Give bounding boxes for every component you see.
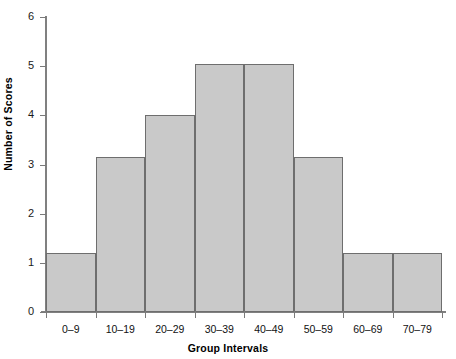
- x-tick-mark: [46, 311, 47, 318]
- y-axis-title: Number of Scores: [2, 64, 14, 184]
- x-tick-label-40–49: 40–49: [244, 323, 294, 335]
- x-tick-mark: [195, 311, 196, 318]
- y-tick-label: 0: [4, 305, 34, 318]
- bar-0–9: [46, 253, 96, 312]
- x-tick-label-20–29: 20–29: [145, 323, 195, 335]
- x-tick-mark: [244, 311, 245, 318]
- x-tick-mark: [145, 311, 146, 318]
- bar-40–49: [244, 64, 294, 312]
- bar-30–39: [195, 64, 245, 312]
- x-tick-mark: [343, 311, 344, 318]
- bar-20–29: [145, 115, 195, 312]
- y-tick-label: 1: [4, 256, 34, 269]
- x-tick-label-50–59: 50–59: [294, 323, 344, 335]
- x-tick-label-10–19: 10–19: [96, 323, 146, 335]
- x-tick-label-70–79: 70–79: [393, 323, 443, 335]
- y-tick-label: 2: [4, 207, 34, 220]
- y-tick-label: 6: [4, 10, 34, 23]
- histogram-chart: 0123456 0–910–1920–2930–3940–4950–5960–6…: [0, 0, 456, 359]
- plot-area: [46, 17, 442, 312]
- bar-50–59: [294, 157, 344, 312]
- x-tick-mark: [294, 311, 295, 318]
- x-tick-label-60–69: 60–69: [343, 323, 393, 335]
- x-tick-mark: [442, 311, 443, 318]
- x-tick-mark: [393, 311, 394, 318]
- x-tick-mark: [96, 311, 97, 318]
- x-axis-title: Group Intervals: [0, 342, 456, 354]
- bar-60–69: [343, 253, 393, 312]
- x-tick-label-0–9: 0–9: [46, 323, 96, 335]
- bar-10–19: [96, 157, 146, 312]
- x-tick-label-30–39: 30–39: [195, 323, 245, 335]
- bar-70–79: [393, 253, 443, 312]
